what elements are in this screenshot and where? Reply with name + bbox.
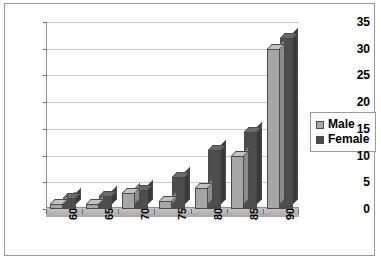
bar-face (267, 49, 280, 209)
x-tick-mark (154, 209, 155, 214)
y-tick-label: 5 (336, 176, 370, 188)
y-tick-label: 20 (336, 96, 370, 108)
y-tick-mark (43, 75, 47, 76)
x-tick-mark (263, 209, 264, 214)
bar-male-80-84 (195, 188, 208, 209)
gridline-25 (47, 75, 299, 76)
x-tick-mark (118, 209, 119, 214)
bar-male-90 (267, 49, 280, 209)
bar-side (257, 122, 262, 204)
y-tick-mark (43, 102, 47, 103)
bar-side (293, 28, 298, 204)
gridline-20 (47, 102, 299, 103)
gridline-30 (47, 49, 299, 50)
bar-face (195, 188, 208, 209)
y-tick-mark (43, 22, 47, 23)
chart-screenshot: 60-6465-6970-7475-7980-8485-8990 + MaleF… (0, 0, 381, 263)
bar-male-70-74 (122, 193, 135, 209)
y-tick-mark (43, 209, 47, 210)
bar-face (159, 201, 172, 209)
y-tick-label: 10 (336, 150, 370, 162)
y-tick-label: 15 (336, 123, 370, 135)
plot-area (46, 22, 299, 209)
x-axis: 60-6465-6970-7475-7980-8485-8990 + (46, 218, 299, 263)
legend-swatch-male-icon (316, 121, 324, 129)
y-tick-mark (43, 129, 47, 130)
y-tick-label: 25 (336, 69, 370, 81)
x-tick-mark (82, 209, 83, 214)
bar-face (122, 193, 135, 209)
bar-side (280, 39, 285, 204)
figure-frame: 60-6465-6970-7475-7980-8485-8990 + MaleF… (4, 3, 375, 256)
bar-side (221, 140, 226, 204)
legend-swatch-female-icon (316, 136, 324, 144)
y-tick-label: 0 (336, 203, 370, 215)
y-tick-label: 30 (336, 43, 370, 55)
x-tick-mark (298, 209, 299, 214)
bar-male-85-89 (231, 156, 244, 209)
y-tick-mark (43, 182, 47, 183)
x-tick-mark (227, 209, 228, 214)
bar-male-60-64 (50, 204, 63, 209)
chart-floor-top (46, 208, 299, 217)
gridline-35 (47, 22, 299, 23)
bar-face (50, 204, 63, 209)
bar-male-65-69 (86, 204, 99, 209)
y-tick-mark (43, 49, 47, 50)
y-tick-mark (43, 156, 47, 157)
x-tick-mark (191, 209, 192, 214)
y-axis (5, 22, 43, 209)
bar-face (86, 204, 99, 209)
bar-male-75-79 (159, 201, 172, 209)
bar-face (231, 156, 244, 209)
y-tick-label: 35 (336, 16, 370, 28)
bar-side (208, 178, 213, 204)
